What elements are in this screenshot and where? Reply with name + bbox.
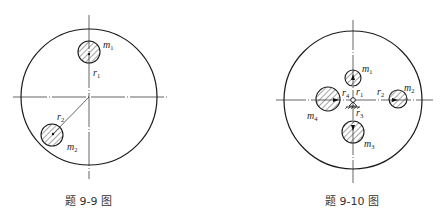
label-m2: m2 (67, 141, 77, 153)
mass-m1 (78, 41, 100, 63)
label-r2: r2 (377, 86, 384, 98)
label-m3: m3 (364, 138, 374, 150)
mass-m3 (342, 121, 364, 143)
label-m1: m1 (362, 63, 372, 75)
mass-m2-center-dot (52, 133, 54, 135)
label-r3: r3 (356, 107, 363, 119)
label-m1: m1 (103, 39, 113, 51)
caption-fig-9-9: 题 9-9 图 (65, 195, 112, 208)
mass-m2 (41, 124, 63, 146)
figure-9-9: m1 r1 r2 m2 题 9-9 图 (13, 15, 167, 208)
label-r4: r4 (342, 87, 350, 99)
diagram-canvas: m1 r1 r2 m2 题 9-9 图 m1 r1 (0, 0, 441, 212)
label-m4: m4 (307, 110, 318, 122)
mass-m4 (316, 87, 340, 111)
label-r2: r2 (57, 111, 64, 123)
caption-fig-9-10: 题 9-10 图 (325, 195, 379, 208)
mass-m1-center-dot (88, 53, 90, 55)
label-r1: r1 (356, 86, 363, 98)
label-m2: m2 (404, 82, 414, 94)
figure-9-10: m1 r1 r2 m2 r3 m3 r4 m4 题 9-10 图 (276, 20, 433, 208)
label-r1: r1 (93, 67, 100, 79)
